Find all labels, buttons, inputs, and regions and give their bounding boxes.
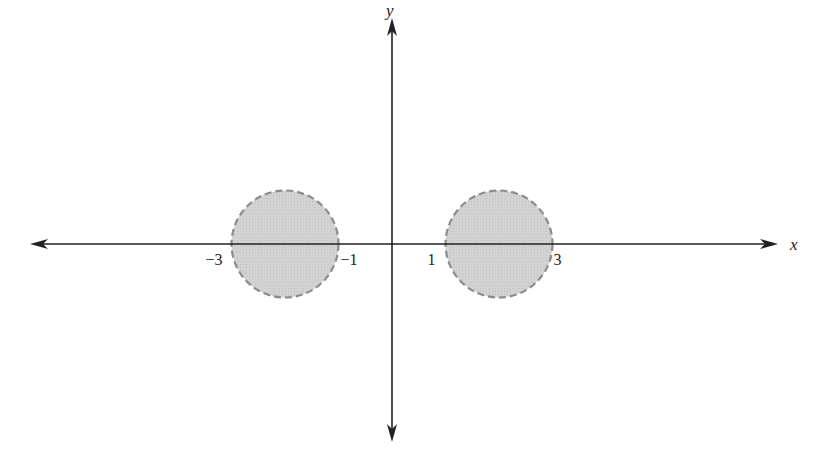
- tick-label-neg1: −1: [341, 251, 358, 268]
- coordinate-plane-diagram: x y −3−113: [0, 0, 823, 466]
- tick-label-3: 3: [554, 251, 562, 268]
- tick-label-1: 1: [428, 251, 436, 268]
- tick-label-neg3: −3: [206, 251, 223, 268]
- y-axis-label: y: [384, 1, 394, 20]
- axes: [30, 18, 778, 442]
- x-axis-label: x: [789, 235, 798, 254]
